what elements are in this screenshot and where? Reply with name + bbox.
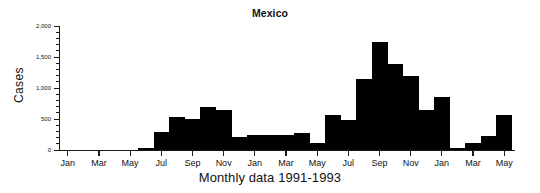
bar	[387, 64, 403, 150]
bar	[341, 120, 357, 150]
bar	[356, 79, 372, 150]
y-tick-label: 1,500	[36, 54, 51, 60]
bar	[496, 115, 512, 150]
x-tick	[317, 151, 318, 156]
x-tick	[504, 151, 505, 156]
bar	[294, 133, 310, 150]
chart-title: Mexico	[0, 7, 540, 19]
x-tick	[379, 151, 380, 156]
bar	[216, 110, 232, 150]
y-tick-label: 2,000	[36, 23, 51, 29]
bar	[185, 119, 201, 150]
x-tick	[254, 151, 255, 156]
bar	[169, 117, 185, 150]
bar	[154, 132, 170, 150]
bar	[450, 148, 466, 150]
x-tick	[130, 151, 131, 156]
x-tick	[67, 151, 68, 156]
x-tick-label: Sep	[175, 158, 209, 168]
x-tick	[223, 151, 224, 156]
x-tick-label: Nov	[394, 158, 428, 168]
bar	[434, 97, 450, 150]
bar	[372, 42, 388, 151]
x-tick-label: Jul	[331, 158, 365, 168]
x-tick	[472, 151, 473, 156]
x-tick-label: May	[487, 158, 521, 168]
bar	[263, 135, 279, 151]
bar	[481, 136, 497, 150]
y-tick-label: 0	[48, 147, 51, 153]
x-tick-label: Jan	[238, 158, 272, 168]
x-tick-label: Sep	[363, 158, 397, 168]
bar	[231, 137, 247, 150]
bar	[465, 143, 481, 150]
x-tick	[192, 151, 193, 156]
y-axis-title: Cases	[12, 45, 26, 125]
bar	[325, 115, 341, 150]
bar	[309, 143, 325, 150]
x-tick-label: Nov	[207, 158, 241, 168]
x-tick-label: Mar	[269, 158, 303, 168]
x-tick-label: Mar	[82, 158, 116, 168]
plot-area	[60, 26, 512, 150]
x-tick	[410, 151, 411, 156]
y-tick-label: 500	[41, 116, 51, 122]
x-tick-label: May	[113, 158, 147, 168]
x-tick-label: Jul	[144, 158, 178, 168]
bar	[138, 148, 154, 150]
x-axis-title: Monthly data 1991-1993	[0, 170, 540, 185]
x-tick-label: Mar	[456, 158, 490, 168]
x-axis-line	[59, 150, 515, 151]
x-tick-label: Jan	[51, 158, 85, 168]
x-tick	[98, 151, 99, 156]
x-tick-label: May	[300, 158, 334, 168]
y-tick-label: 1,000	[36, 85, 51, 91]
bar	[418, 110, 434, 150]
x-tick-label: Jan	[425, 158, 459, 168]
bar	[200, 107, 216, 150]
bar	[278, 135, 294, 151]
x-tick	[348, 151, 349, 156]
x-tick	[285, 151, 286, 156]
x-tick	[441, 151, 442, 156]
x-tick	[161, 151, 162, 156]
bar	[247, 135, 263, 150]
chart-figure: Mexico Cases 05001,0001,5002,000 JanMarM…	[0, 0, 540, 193]
bar	[403, 76, 419, 150]
